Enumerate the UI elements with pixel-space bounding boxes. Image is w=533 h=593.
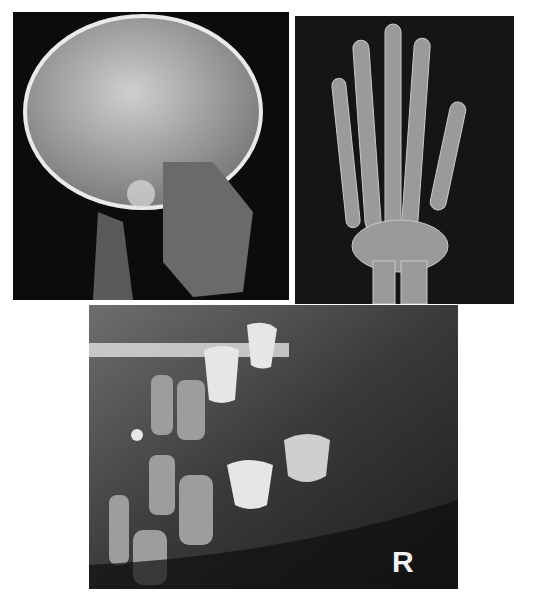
side-marker-label: R <box>392 545 414 579</box>
hand-xray-image <box>295 16 514 304</box>
skull-xray-panel <box>13 12 289 300</box>
skull-xray-image <box>13 12 289 300</box>
hand-xray-panel <box>295 16 514 304</box>
